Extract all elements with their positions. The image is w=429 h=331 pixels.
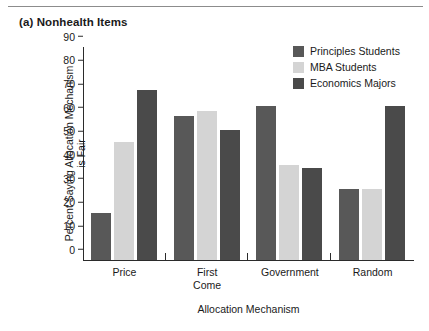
bar [339, 189, 359, 260]
bar [256, 106, 276, 260]
x-axis-tick-labels: PriceFirstComeGovernmentRandom [83, 266, 414, 291]
y-axis-tick-label: 50 [63, 126, 78, 137]
bar [174, 116, 194, 260]
x-axis-tick-label: Government [249, 266, 332, 291]
legend-swatch-icon [293, 46, 304, 57]
y-axis-tick: 50 [63, 126, 83, 137]
x-axis-tick-label-line1: First [166, 266, 249, 279]
bar [197, 111, 217, 260]
y-axis-tick: 10 [63, 221, 83, 232]
y-axis-tick: 40 [63, 150, 83, 161]
y-axis-tick: 60 [63, 102, 83, 113]
bar [362, 189, 382, 260]
x-axis-tick-label-line1: Random [331, 266, 414, 279]
y-axis-tick-label: 80 [63, 55, 78, 66]
y-axis-tick-label: 20 [63, 197, 78, 208]
bar [385, 106, 405, 260]
bar-group [166, 47, 249, 260]
legend-item: MBA Students [293, 60, 400, 75]
y-axis-tick-label: 40 [63, 150, 78, 161]
x-axis-tick-label: Price [83, 266, 166, 291]
bar [137, 90, 157, 260]
top-divider [8, 6, 423, 7]
y-axis-tick: 20 [63, 197, 83, 208]
bar [302, 168, 322, 260]
x-axis-tick-label-line1: Price [83, 266, 166, 279]
legend: Principles StudentsMBA StudentsEconomics… [293, 44, 400, 92]
y-axis-tick: 0 [69, 244, 83, 255]
bar [220, 130, 240, 260]
x-axis-title: Allocation Mechanism [83, 303, 414, 315]
y-axis-tick-label: 70 [63, 79, 78, 90]
legend-item-label: Economics Majors [310, 78, 396, 89]
bar-group [83, 47, 166, 260]
y-axis-tick: 70 [63, 79, 83, 90]
y-axis-tick-mark [78, 36, 83, 37]
legend-item: Principles Students [293, 44, 400, 59]
legend-swatch-icon [293, 62, 304, 73]
legend-swatch-icon [293, 78, 304, 89]
legend-item-label: Principles Students [310, 46, 400, 57]
x-axis-tick-label-line1: Government [249, 266, 332, 279]
y-axis-tick-label: 0 [69, 244, 78, 255]
x-axis-tick-label-line2: Come [166, 279, 249, 292]
bar [279, 165, 299, 260]
bar [114, 142, 134, 260]
x-axis-tick-label: Random [331, 266, 414, 291]
y-axis-tick-label: 90 [63, 31, 78, 42]
legend-item-label: MBA Students [310, 62, 377, 73]
y-axis-tick-label: 30 [63, 173, 78, 184]
y-axis-tick: 30 [63, 173, 83, 184]
y-axis-tick: 80 [63, 55, 83, 66]
y-axis-tick-label: 60 [63, 102, 78, 113]
x-axis-line [83, 260, 414, 261]
page-title: (a) Nonhealth Items [19, 16, 128, 28]
y-axis-tick: 90 [63, 31, 83, 42]
x-axis-tick-label: FirstCome [166, 266, 249, 291]
legend-item: Economics Majors [293, 76, 400, 91]
chart-figure: (a) Nonhealth Items Percent Saying Alloc… [0, 0, 429, 331]
bar [91, 213, 111, 260]
y-axis-tick-label: 10 [63, 221, 78, 232]
